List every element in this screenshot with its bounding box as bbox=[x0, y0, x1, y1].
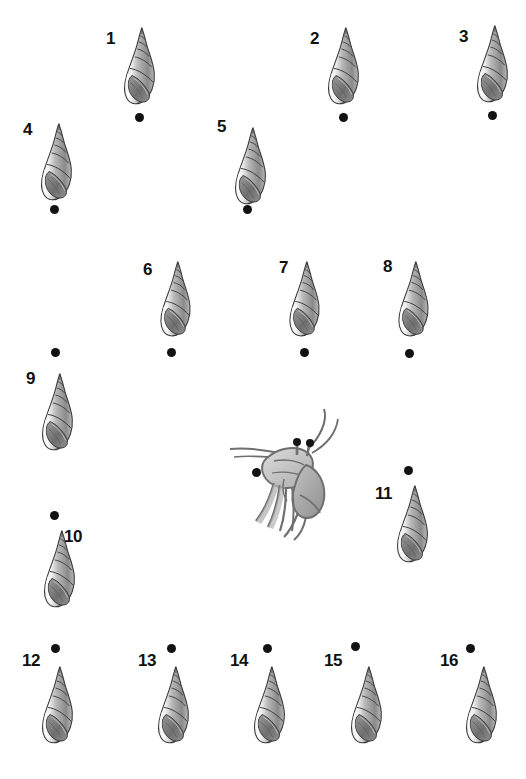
shell-specimen-12 bbox=[36, 665, 82, 749]
reference-dot-9 bbox=[51, 348, 60, 357]
specimen-label-16: 16 bbox=[440, 652, 458, 669]
specimen-label-9: 9 bbox=[26, 370, 35, 387]
reference-dot-3 bbox=[488, 111, 497, 120]
specimen-label-6: 6 bbox=[143, 261, 152, 278]
shell-specimen-1 bbox=[118, 26, 164, 110]
reference-dot-6 bbox=[167, 348, 176, 357]
shell-specimen-5 bbox=[229, 126, 275, 210]
shell-specimen-13 bbox=[152, 665, 198, 749]
shell-specimen-8 bbox=[393, 260, 437, 342]
reference-dot-5 bbox=[243, 205, 252, 214]
specimen-label-12: 12 bbox=[22, 652, 40, 669]
reference-dot-14 bbox=[263, 644, 272, 653]
specimen-label-10: 10 bbox=[64, 528, 82, 545]
shell-specimen-6 bbox=[155, 260, 199, 342]
specimen-label-1: 1 bbox=[106, 30, 115, 47]
reference-dot-1 bbox=[135, 113, 144, 122]
shell-specimen-2 bbox=[322, 26, 368, 110]
shell-specimen-9 bbox=[36, 372, 82, 456]
reference-dot-11 bbox=[404, 466, 413, 475]
shell-specimen-16 bbox=[460, 665, 506, 749]
specimen-label-7: 7 bbox=[279, 259, 288, 276]
specimen-label-8: 8 bbox=[383, 258, 392, 275]
specimen-label-13: 13 bbox=[138, 652, 156, 669]
shell-specimen-14 bbox=[248, 665, 294, 749]
reference-dot-12 bbox=[51, 644, 60, 653]
reference-dot-7 bbox=[300, 348, 309, 357]
shell-specimen-7 bbox=[284, 260, 328, 342]
reference-dot-8 bbox=[405, 349, 414, 358]
specimen-label-4: 4 bbox=[23, 121, 32, 138]
shell-specimen-11 bbox=[391, 484, 437, 568]
reference-dot-16 bbox=[466, 644, 475, 653]
reference-dot-crab bbox=[252, 468, 261, 477]
reference-dot-15 bbox=[351, 642, 360, 651]
shell-specimen-3 bbox=[471, 24, 517, 108]
reference-dot-4 bbox=[50, 205, 59, 214]
specimen-label-15: 15 bbox=[324, 652, 342, 669]
figure-plate: 1 bbox=[0, 0, 526, 779]
specimen-label-11: 11 bbox=[375, 485, 392, 502]
hermit-crab bbox=[228, 403, 348, 547]
specimen-label-2: 2 bbox=[310, 30, 319, 47]
shell-specimen-4 bbox=[35, 122, 81, 206]
reference-dot-2 bbox=[339, 113, 348, 122]
reference-dot-10 bbox=[50, 511, 59, 520]
specimen-label-14: 14 bbox=[230, 652, 248, 669]
specimen-label-3: 3 bbox=[459, 28, 468, 45]
reference-dot-13 bbox=[167, 644, 176, 653]
specimen-label-5: 5 bbox=[217, 118, 226, 135]
shell-specimen-15 bbox=[345, 665, 391, 749]
